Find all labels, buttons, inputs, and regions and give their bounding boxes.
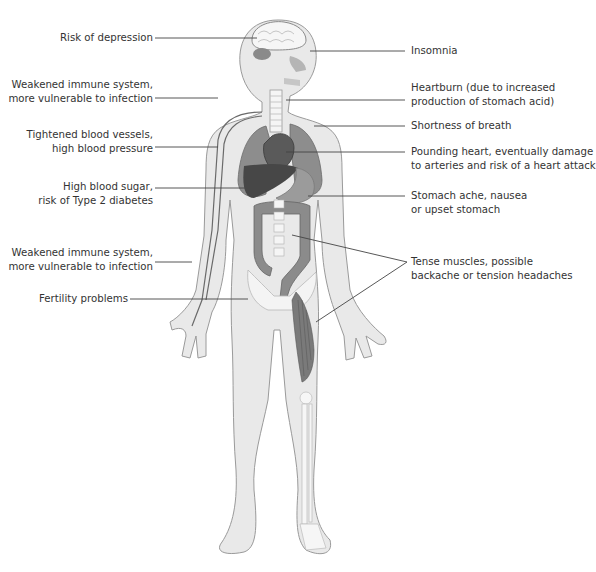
label-heartburn: Heartburn (due to increased production o… [411, 81, 555, 108]
label-insomnia: Insomnia [411, 44, 457, 58]
label-pounding-heart: Pounding heart, eventually damage to art… [411, 145, 596, 172]
label-tense-muscles: Tense muscles, possible backache or tens… [411, 255, 573, 282]
label-weakened-immune-upper: Weakened immune system, more vulnerable … [8, 78, 153, 105]
label-high-blood-sugar: High blood sugar, risk of Type 2 diabete… [38, 180, 153, 207]
label-weakened-immune-lower: Weakened immune system, more vulnerable … [8, 246, 153, 273]
label-tightened-blood-vessels: Tightened blood vessels, high blood pres… [27, 128, 153, 155]
label-stomach-ache: Stomach ache, nausea or upset stomach [411, 189, 527, 216]
label-fertility-problems: Fertility problems [39, 292, 128, 306]
cerebellum [253, 48, 271, 60]
label-risk-of-depression: Risk of depression [60, 31, 153, 45]
label-shortness-of-breath: Shortness of breath [411, 119, 511, 133]
